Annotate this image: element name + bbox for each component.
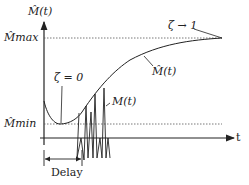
actual-curve-label: M(t) (112, 96, 136, 107)
diagram-svg (0, 0, 249, 185)
y-axis-label: M̂(t) (28, 6, 52, 17)
min-level-label: M̂min (4, 118, 36, 129)
diagram-canvas: M̂(t) t M̂max M̂min ζ = 0 ζ → 1 M̂(t) M(… (0, 0, 249, 185)
estimate-curve-label: M̂(t) (152, 66, 176, 77)
zeta-one-label: ζ → 1 (168, 20, 197, 31)
x-axis-label: t (236, 132, 240, 143)
delay-label: Delay (51, 167, 83, 178)
zeta-zero-label: ζ = 0 (54, 72, 83, 83)
max-level-label: M̂max (4, 32, 38, 43)
